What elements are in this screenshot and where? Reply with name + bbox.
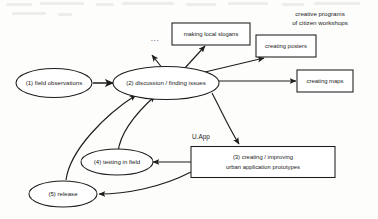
output-box-making-local-slogans[interactable]: making local slogans — [172, 23, 250, 45]
node-release[interactable]: (5) release — [29, 181, 97, 207]
node-discussion[interactable]: (2) discussion / finding issues — [113, 67, 219, 100]
annotation-uapp-label: U.App — [192, 133, 210, 141]
edge-discussion-to-slogans — [184, 46, 205, 69]
edge-testing-to-discussion — [118, 96, 155, 152]
node-testing-in-field-label: (4) testing in field — [94, 158, 140, 165]
flow-diagram: (1) field observations (2) discussion / … — [0, 0, 378, 219]
output-box-creating-maps[interactable]: creating maps — [297, 70, 353, 92]
node-discussion-label: (2) discussion / finding issues — [126, 79, 206, 86]
node-creating-prototypes-label-line2: urban application prototypes — [226, 164, 300, 170]
diagram-canvas: (1) field observations (2) discussion / … — [0, 0, 378, 219]
node-testing-in-field[interactable]: (4) testing in field — [81, 149, 153, 175]
node-field-observations-label: (1) field observations — [26, 79, 83, 86]
node-creating-prototypes-label-line1: (3) creating / improving — [233, 154, 293, 160]
output-box-creating-posters[interactable]: creating posters — [256, 35, 316, 57]
output-box-creating-posters-label: creating posters — [265, 43, 307, 49]
edge-discussion-to-posters — [205, 58, 264, 72]
edge-discussion-to-creating — [212, 93, 239, 144]
output-box-making-local-slogans-label: making local slogans — [184, 31, 239, 37]
annotation-ellipsis: ... — [151, 34, 159, 43]
annotation-creative-programs-line1: creative programs — [295, 10, 345, 17]
node-field-observations[interactable]: (1) field observations — [16, 69, 92, 98]
output-box-creating-maps-label: creating maps — [307, 78, 344, 84]
node-creating-prototypes[interactable]: (3) creating / improving urban applicati… — [191, 147, 335, 178]
node-release-label: (5) release — [48, 190, 78, 197]
annotation-creative-programs-line2: of citizen workshops — [292, 19, 348, 26]
